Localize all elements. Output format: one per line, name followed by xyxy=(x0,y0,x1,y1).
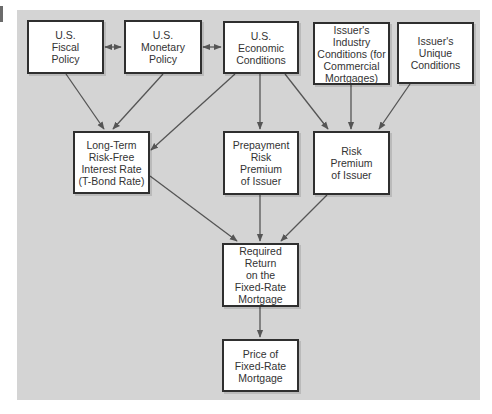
node-long-term-risk-free-rate: Long-Term Risk-Free Interest Rate (T-Bon… xyxy=(73,131,150,194)
node-price-of-mortgage: Price of Fixed-Rate Mortgage xyxy=(222,339,299,392)
node-issuer-unique-conditions: Issuer's Unique Conditions xyxy=(397,22,474,84)
node-risk-premium-of-issuer: Risk Premium of Issuer xyxy=(313,131,390,195)
node-us-fiscal-policy: U.S. Fiscal Policy xyxy=(27,20,104,74)
node-us-economic-conditions: U.S. Economic Conditions xyxy=(223,21,299,74)
node-prepayment-risk-premium: Prepayment Risk Premium of Issuer xyxy=(223,131,299,195)
node-issuer-industry-conditions: Issuer's Industry Conditions (for Commer… xyxy=(313,22,390,85)
arrow-fiscal-riskfree xyxy=(66,74,104,129)
arrow-unique-riskpremium xyxy=(379,84,410,129)
node-us-monetary-policy: U.S. Monetary Policy xyxy=(124,20,202,74)
arrow-monetary-riskfree xyxy=(113,74,163,129)
node-required-return: Required Return on the Fixed-Rate Mortga… xyxy=(222,243,299,307)
arrow-riskpremium-required xyxy=(281,195,327,241)
